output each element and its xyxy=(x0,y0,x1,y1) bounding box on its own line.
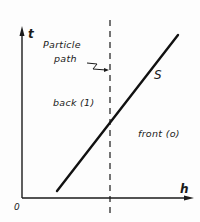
particle-label-line1: Particle xyxy=(43,40,81,50)
space-time-diagram: t h 0 Particle path S back (1) front (o) xyxy=(0,0,200,222)
pointer-arrowhead-icon xyxy=(104,68,109,72)
particle-path-pointer-icon xyxy=(87,63,106,70)
origin-label: 0 xyxy=(14,203,20,212)
h-axis-label: h xyxy=(180,183,189,195)
front-region-label: front (o) xyxy=(138,129,180,139)
back-region-label: back (1) xyxy=(53,98,94,108)
t-axis-arrowhead-icon xyxy=(20,26,25,36)
shock-label-s: S xyxy=(154,69,162,81)
t-axis-label: t xyxy=(28,28,34,40)
h-axis-arrowhead-icon xyxy=(184,196,194,201)
particle-label-line2: path xyxy=(54,54,77,64)
